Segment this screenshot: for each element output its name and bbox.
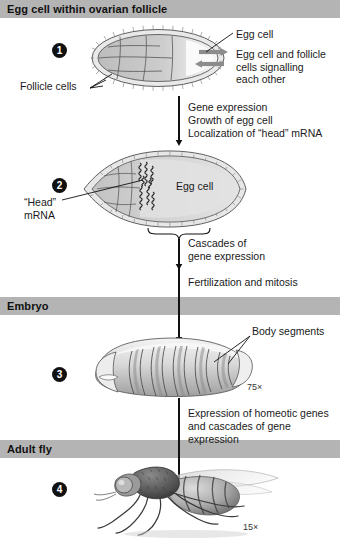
step-badge-2: 2: [52, 178, 67, 193]
grown-egg-cell-art: [62, 151, 246, 227]
label-signalling: Egg cell and follicle cells signalling e…: [236, 48, 340, 86]
magnification-embryo: 75×: [247, 381, 262, 394]
process-text-cascades: Cascades of gene expression: [188, 237, 265, 263]
label-follicle-cells: Follicle cells: [20, 80, 77, 93]
diagram-canvas: Egg cell within ovarian follicle Embryo …: [0, 0, 340, 544]
process-text-homeotic: Expression of homeotic genes and cascade…: [188, 407, 340, 445]
label-head-mrna: “Head” mRNA: [24, 196, 56, 221]
step-badge-4: 4: [52, 482, 67, 497]
egg-in-follicle-art: [90, 25, 233, 91]
step-badge-1: 1: [52, 43, 67, 58]
process-text-gene-expression: Gene expression Growth of egg cell Local…: [188, 101, 322, 139]
embryo-art: [96, 336, 253, 397]
magnification-adult: 15×: [243, 521, 258, 534]
step-badge-3: 3: [52, 367, 67, 382]
label-body-segments: Body segments: [252, 325, 324, 338]
process-text-fertilization: Fertilization and mitosis: [188, 276, 298, 289]
label-egg-cell-stage1: Egg cell: [236, 28, 273, 41]
label-egg-cell-stage2: Egg cell: [176, 180, 213, 193]
